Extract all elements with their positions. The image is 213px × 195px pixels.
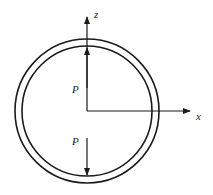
force-label-bottom: P — [72, 135, 79, 147]
ring-diagram — [0, 0, 213, 195]
z-axis-label: z — [94, 8, 98, 20]
x-axis-label: x — [196, 110, 201, 122]
force-label-top: P — [72, 83, 79, 95]
